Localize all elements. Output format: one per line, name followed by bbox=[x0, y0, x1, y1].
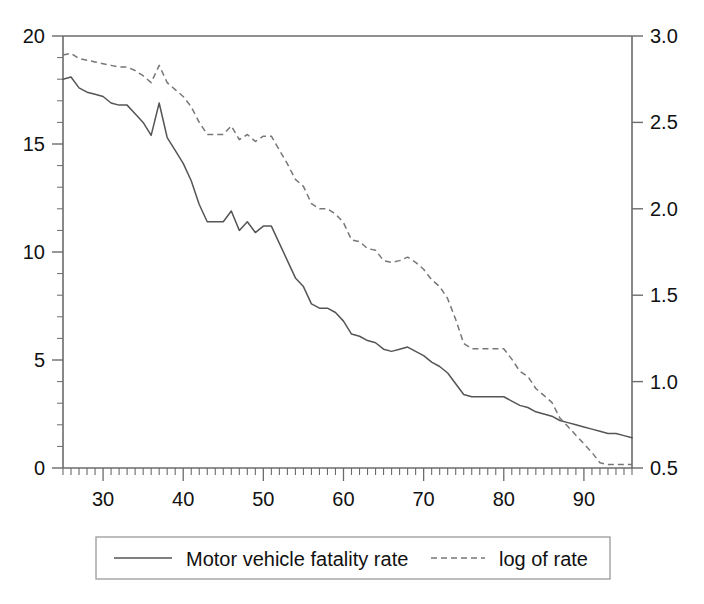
y2-axis-tick-label: 1.0 bbox=[650, 371, 678, 393]
x-axis-tick-label: 40 bbox=[172, 488, 194, 510]
legend-label-motor-vehicle-fatality-rate: Motor vehicle fatality rate bbox=[186, 548, 408, 570]
line-chart-canvas: 30405060708090 05101520 0.51.01.52.02.53… bbox=[0, 0, 704, 604]
x-axis-tick-label: 50 bbox=[252, 488, 274, 510]
chart-legend: Motor vehicle fatality rate log of rate bbox=[96, 537, 610, 579]
chart-background bbox=[0, 0, 704, 604]
x-axis-tick-label: 70 bbox=[413, 488, 435, 510]
x-axis-tick-label: 80 bbox=[493, 488, 515, 510]
y-axis-tick-label: 0 bbox=[34, 457, 45, 479]
y-axis-tick-label: 10 bbox=[23, 241, 45, 263]
x-axis-tick-label: 90 bbox=[573, 488, 595, 510]
y2-axis-tick-label: 2.5 bbox=[650, 111, 678, 133]
y2-axis-tick-label: 2.0 bbox=[650, 198, 678, 220]
y2-axis-tick-label: 0.5 bbox=[650, 457, 678, 479]
x-axis-tick-label: 60 bbox=[332, 488, 354, 510]
y2-axis-tick-label: 1.5 bbox=[650, 284, 678, 306]
y-axis-tick-label: 15 bbox=[23, 133, 45, 155]
legend-label-log-of-rate: log of rate bbox=[499, 548, 588, 570]
y-axis-tick-label: 20 bbox=[23, 25, 45, 47]
x-axis-tick-label: 30 bbox=[92, 488, 114, 510]
y2-axis-tick-label: 3.0 bbox=[650, 25, 678, 47]
chart-figure: 30405060708090 05101520 0.51.01.52.02.53… bbox=[0, 0, 704, 604]
y-axis-tick-label: 5 bbox=[34, 349, 45, 371]
